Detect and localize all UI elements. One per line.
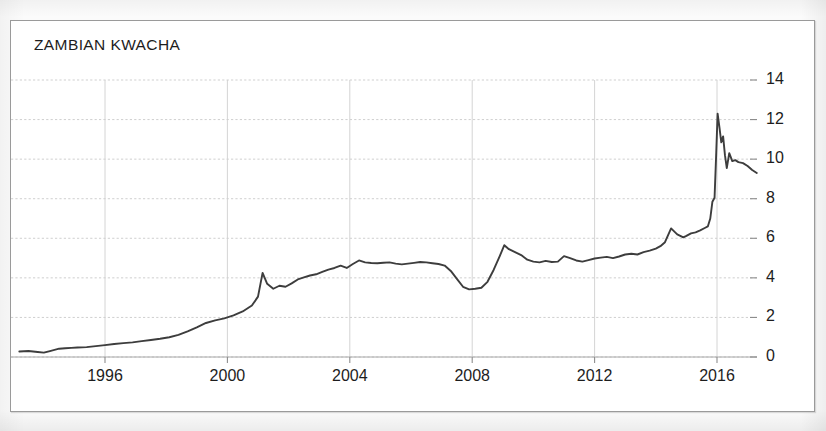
x-axis-tick-label: 2004 xyxy=(315,367,385,385)
y-axis-tick-label: 14 xyxy=(766,70,784,88)
x-axis-tick-label: 2008 xyxy=(437,367,507,385)
x-axis-tick-label: 2000 xyxy=(192,367,262,385)
y-axis-tick-label: 6 xyxy=(766,228,775,246)
y-axis-tick-label: 12 xyxy=(766,110,784,128)
y-axis-tick-label: 2 xyxy=(766,307,775,325)
y-axis-tick-label: 4 xyxy=(766,268,775,286)
x-axis-tick-label: 2012 xyxy=(560,367,630,385)
x-axis-ticks xyxy=(105,357,717,363)
scanned-page-background: ZAMBIAN KWACHA 02468101214 1996200020042… xyxy=(0,0,826,431)
y-axis-tick-label: 8 xyxy=(766,189,775,207)
y-axis-tick-label: 0 xyxy=(766,347,775,365)
data-series-line xyxy=(19,114,756,353)
y-axis-tick-label: 10 xyxy=(766,149,784,167)
y-axis-ticks xyxy=(750,80,757,357)
vertical-gridlines xyxy=(11,80,757,357)
horizontal-gridlines xyxy=(11,80,757,357)
x-axis-tick-label: 1996 xyxy=(70,367,140,385)
x-axis-tick-label: 2016 xyxy=(682,367,752,385)
